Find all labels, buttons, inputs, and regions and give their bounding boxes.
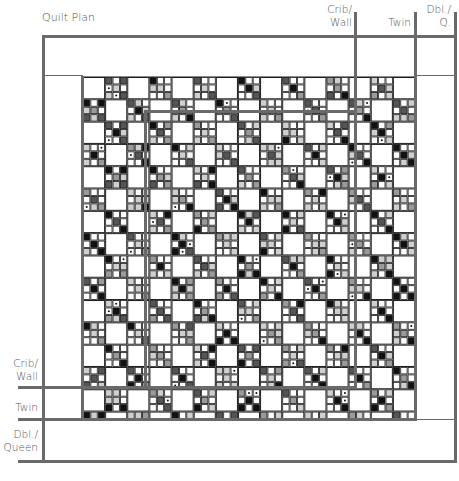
dbl-queen-right-thin-line: [415, 75, 455, 76]
outer-border-right: [454, 12, 457, 463]
dbl-queen-top-thin-line: [44, 75, 83, 76]
crib-inner-top-line: [144, 110, 356, 113]
dbl-queen-right-lower-thin-line: [415, 419, 455, 420]
twin-vertical-line: [414, 12, 417, 421]
crib-inner-left-line: [144, 110, 147, 388]
dbl-queen-bottom-line: [18, 460, 457, 463]
crib-wall-vertical-line: [354, 12, 357, 388]
outer-border-left: [42, 35, 45, 463]
crib-wall-horizontal-line: [18, 386, 357, 389]
quilt-grid: [0, 0, 459, 481]
twin-horizontal-line: [18, 418, 417, 421]
outer-border-top: [42, 35, 457, 38]
grid-left-line: [81, 76, 84, 421]
